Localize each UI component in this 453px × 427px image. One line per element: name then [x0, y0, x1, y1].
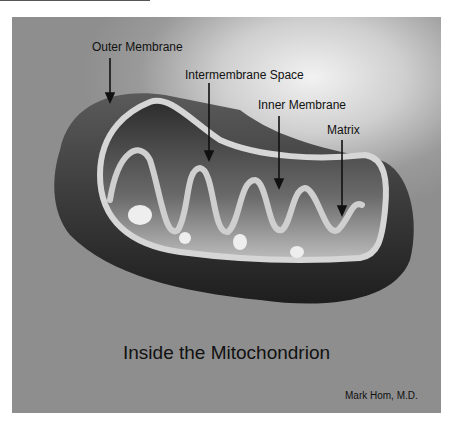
label-inner-membrane: Inner Membrane: [258, 98, 346, 112]
label-outer-membrane: Outer Membrane: [92, 40, 183, 54]
label-matrix: Matrix: [327, 123, 360, 137]
author-credit: Mark Hom, M.D.: [345, 390, 418, 401]
label-intermembrane-space: Intermembrane Space: [185, 68, 304, 82]
diagram-title: Inside the Mitochondrion: [123, 342, 330, 364]
